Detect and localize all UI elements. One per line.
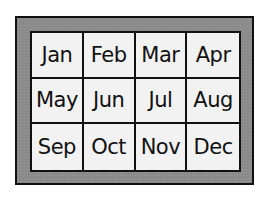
month-aug: Aug <box>187 79 239 125</box>
month-grid: Jan Feb Mar Apr May Jun Jul Aug Sep Oct … <box>30 31 241 172</box>
month-jun: Jun <box>84 79 136 125</box>
month-jan: Jan <box>32 33 84 79</box>
month-nov: Nov <box>136 124 188 170</box>
month-mar: Mar <box>136 33 188 79</box>
month-apr: Apr <box>187 33 239 79</box>
calendar-frame: Jan Feb Mar Apr May Jun Jul Aug Sep Oct … <box>15 16 254 185</box>
month-jul: Jul <box>136 79 188 125</box>
month-dec: Dec <box>187 124 239 170</box>
month-feb: Feb <box>84 33 136 79</box>
month-sep: Sep <box>32 124 84 170</box>
month-may: May <box>32 79 84 125</box>
month-oct: Oct <box>84 124 136 170</box>
